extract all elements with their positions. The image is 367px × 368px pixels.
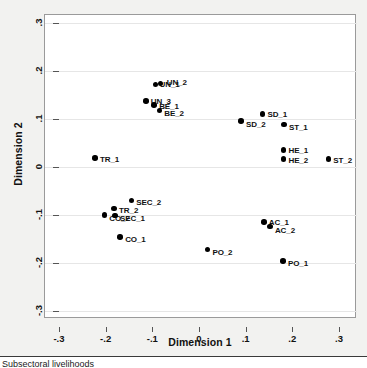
gridline <box>45 167 357 168</box>
data-point-label: TR_1 <box>100 155 119 164</box>
data-point-label: SD_2 <box>246 120 266 129</box>
data-point <box>129 198 135 204</box>
gridline <box>45 23 357 24</box>
data-point-label: SEC_2 <box>136 198 161 207</box>
data-point-label: BE_2 <box>164 109 184 118</box>
x-tick-mark <box>106 327 107 332</box>
data-point <box>112 213 118 219</box>
x-tick-label: .2 <box>277 333 307 344</box>
y-tick-mark <box>53 71 59 72</box>
gridline <box>45 311 357 312</box>
data-point <box>151 102 157 108</box>
data-point <box>238 118 244 124</box>
data-point <box>157 108 163 114</box>
x-tick-mark <box>59 327 60 332</box>
y-tick-label: .1 <box>33 106 44 132</box>
data-point-label: UN_2 <box>167 78 187 87</box>
y-tick-mark <box>53 23 59 24</box>
data-point <box>261 219 267 225</box>
x-tick-label: -.3 <box>44 333 74 344</box>
x-tick-label: .1 <box>231 333 261 344</box>
chart-figure: Dimension 2 Dimension 1 .3.2.10-.1-.2-.3… <box>0 0 367 356</box>
data-point <box>117 234 123 240</box>
y-tick-label: -.2 <box>33 250 44 276</box>
data-point <box>260 111 266 117</box>
data-point-label: HE_1 <box>288 146 308 155</box>
data-point <box>281 122 287 128</box>
x-tick-label: .3 <box>324 333 354 344</box>
data-point-label: SEC_1 <box>120 214 145 223</box>
y-tick-label: -.1 <box>33 202 44 228</box>
y-tick-mark <box>53 167 59 168</box>
x-tick-label: 0 <box>184 333 214 344</box>
data-point <box>111 206 117 212</box>
y-tick-label: -.3 <box>33 298 44 324</box>
data-point <box>280 258 286 264</box>
data-point-label: PO_1 <box>288 259 308 268</box>
x-tick-label: -.1 <box>137 333 167 344</box>
y-tick-mark <box>53 311 59 312</box>
plot-area: .3.2.10-.1-.2-.3 -.3-.2-.10.1.2.3 UN_1UN… <box>44 14 356 318</box>
data-point <box>205 247 211 253</box>
x-tick-mark <box>339 327 340 332</box>
y-tick-label: 0 <box>33 154 44 180</box>
data-point-label: HE_2 <box>288 156 308 165</box>
data-point <box>326 156 332 162</box>
data-point-label: SD_1 <box>267 110 287 119</box>
data-point-label: PO_2 <box>212 248 232 257</box>
x-tick-mark <box>292 327 293 332</box>
y-tick-mark <box>53 215 59 216</box>
gridline <box>45 71 357 72</box>
data-region: .3.2.10-.1-.2-.3 -.3-.2-.10.1.2.3 UN_1UN… <box>59 23 339 311</box>
data-point <box>143 98 149 104</box>
x-tick-mark <box>152 327 153 332</box>
data-point-label: CO_1 <box>125 235 146 244</box>
y-tick-label: .2 <box>33 58 44 84</box>
x-tick-mark <box>199 327 200 332</box>
data-point <box>267 224 273 230</box>
data-point <box>92 155 98 161</box>
data-point-label: ST_1 <box>289 123 308 132</box>
gridline <box>45 263 357 264</box>
gridline <box>45 119 357 120</box>
y-tick-label: .3 <box>33 10 44 36</box>
caption-strip: Subsectoral livelihoods <box>0 356 367 368</box>
y-axis-title: Dimension 2 <box>12 74 24 234</box>
x-tick-label: -.2 <box>91 333 121 344</box>
x-tick-mark <box>246 327 247 332</box>
y-tick-mark <box>53 263 59 264</box>
data-point-label: AC_2 <box>275 226 295 235</box>
data-point <box>281 156 287 162</box>
caption-text: Subsectoral livelihoods <box>2 359 94 368</box>
data-point <box>102 212 108 218</box>
data-point <box>281 147 287 153</box>
y-tick-mark <box>53 119 59 120</box>
gridline <box>45 215 357 216</box>
data-point-label: ST_2 <box>333 156 352 165</box>
